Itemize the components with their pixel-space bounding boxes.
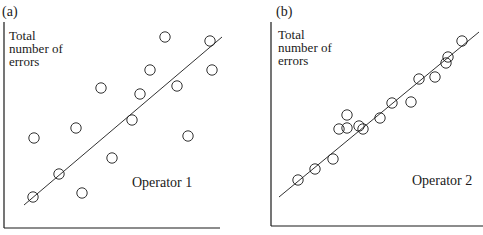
data-point (135, 89, 145, 99)
data-point (107, 153, 117, 163)
data-point (328, 154, 338, 164)
panel-b-operator-2: (b)Totalnumber oferrorsOperator 2 (271, 4, 483, 226)
data-point (77, 188, 87, 198)
data-point (205, 36, 215, 46)
panel-a-operator-1: (a)Totalnumber oferrorsOperator 1 (2, 4, 222, 228)
data-point (29, 133, 39, 143)
data-point (207, 65, 217, 75)
data-point (127, 115, 137, 125)
scatter-figure: (a)Totalnumber oferrorsOperator 1 (b)Tot… (0, 0, 483, 235)
data-point (145, 65, 155, 75)
data-point (160, 32, 170, 42)
data-point (430, 72, 440, 82)
data-point (406, 97, 416, 107)
data-point (172, 81, 182, 91)
data-point (293, 175, 303, 185)
y-axis-label: errors (278, 53, 308, 68)
data-point (387, 98, 397, 108)
data-point (310, 164, 320, 174)
panel-label: (b) (276, 4, 293, 20)
y-axis-label: errors (9, 54, 39, 69)
data-point (183, 131, 193, 141)
data-point (342, 110, 352, 120)
data-point (375, 113, 385, 123)
operator-annotation: Operator 1 (132, 175, 192, 190)
data-point (342, 123, 352, 133)
data-point (96, 83, 106, 93)
data-point (71, 123, 81, 133)
operator-annotation: Operator 2 (412, 173, 472, 188)
panel-label: (a) (2, 4, 18, 20)
data-point (457, 36, 467, 46)
trend-line (24, 37, 222, 205)
data-point (54, 169, 64, 179)
